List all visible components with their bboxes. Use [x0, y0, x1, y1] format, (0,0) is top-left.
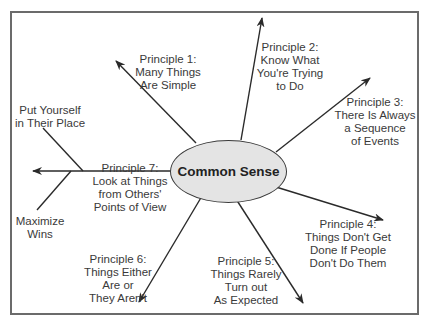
branch-maximize-wins-label: Maximize Wins: [15, 215, 65, 241]
principle-7-label: Principle 7: Look at Things from Others'…: [88, 162, 172, 214]
principle-1-label: Principle 1: Many Things Are Simple: [120, 53, 216, 92]
principle-3-label: Principle 3: There Is Always a Sequence …: [333, 96, 417, 148]
arrow-principle-4: [276, 187, 383, 220]
branch-put-yourself: [43, 128, 83, 171]
center-label: Common Sense: [177, 164, 279, 179]
branch-maximize-wins: [37, 171, 71, 210]
branch-put-yourself-label: Put Yourself in Their Place: [14, 104, 86, 130]
principle-2-label: Principle 2: Know What You're Trying to …: [252, 41, 328, 93]
principle-4-label: Principle 4: Things Don't Get Done If Pe…: [303, 218, 393, 270]
principle-5-label: Principle 5: Things Rarely Turn out As E…: [207, 255, 285, 307]
principle-6-label: Principle 6: Things Either Are or They A…: [78, 253, 158, 305]
center-node: Common Sense: [170, 140, 287, 203]
